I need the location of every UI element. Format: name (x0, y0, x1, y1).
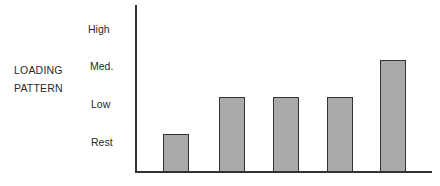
y-tick-med: Med. (90, 60, 113, 72)
bar-5 (380, 60, 406, 171)
x-axis (135, 171, 432, 173)
y-tick-low: Low (91, 98, 110, 110)
y-tick-rest: Rest (91, 136, 113, 148)
bar-3 (273, 97, 299, 171)
bar-2 (219, 97, 245, 171)
y-axis-label-line-1: LOADING (14, 61, 63, 79)
bar-1 (163, 134, 189, 171)
y-axis-label-line-2: PATTERN (14, 79, 63, 97)
bar-4 (327, 97, 353, 171)
y-axis-label: LOADING PATTERN (14, 61, 63, 97)
y-axis (135, 5, 137, 171)
y-tick-high: High (88, 23, 110, 35)
